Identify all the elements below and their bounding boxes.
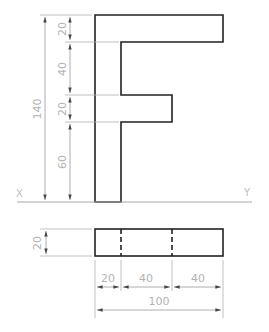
top-extension-lines bbox=[95, 260, 223, 318]
front-extension-lines bbox=[40, 15, 119, 122]
dim-text-20-mid: 20 bbox=[56, 102, 69, 116]
technical-drawing: 140 20 40 20 60 X Y 20 bbox=[0, 0, 269, 332]
top-view-outline bbox=[95, 229, 223, 256]
dim-text-20-top: 20 bbox=[56, 22, 69, 36]
xy-reference-line: X Y bbox=[16, 187, 252, 202]
top-view: 20 20 40 40 100 bbox=[31, 229, 223, 318]
dim-text-thickness: 20 bbox=[31, 236, 44, 250]
letter-f-outline bbox=[95, 15, 223, 202]
y-label: Y bbox=[243, 187, 251, 198]
dim-text-h-40b: 40 bbox=[191, 272, 205, 285]
dim-text-overall-height: 140 bbox=[31, 99, 44, 120]
dim-text-h-40a: 40 bbox=[139, 272, 153, 285]
dim-text-60: 60 bbox=[56, 155, 69, 169]
x-label: X bbox=[16, 188, 23, 199]
dim-text-h-20: 20 bbox=[101, 272, 115, 285]
front-view: 140 20 40 20 60 bbox=[31, 15, 223, 202]
dim-text-40: 40 bbox=[56, 62, 69, 76]
dim-text-overall-width: 100 bbox=[149, 295, 170, 308]
